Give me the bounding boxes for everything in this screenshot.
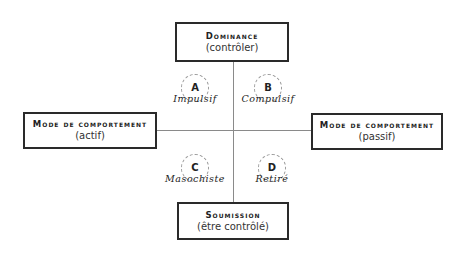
soumission-title: Soumission bbox=[205, 210, 260, 221]
soumission-box: Soumission (être contrôlé) bbox=[177, 202, 289, 240]
dominance-box: Dominance (contrôler) bbox=[175, 22, 289, 62]
horizontal-axis-line bbox=[157, 130, 311, 131]
quadrant-letter: C bbox=[185, 162, 205, 173]
mode-passif-subtitle: (passif) bbox=[359, 131, 396, 143]
dominance-subtitle: (contrôler) bbox=[206, 42, 259, 54]
mode-actif-box: Mode de comportement (actif) bbox=[23, 112, 157, 149]
dominance-title: Dominance bbox=[206, 31, 259, 42]
mode-passif-title: Mode de comportement bbox=[320, 120, 434, 131]
quadrant-label: Compulsif bbox=[223, 93, 313, 104]
quadrant-label: Retiré bbox=[227, 173, 317, 184]
mode-actif-subtitle: (actif) bbox=[75, 130, 105, 142]
mode-passif-box: Mode de comportement (passif) bbox=[311, 113, 443, 150]
quadrant-letter: B bbox=[258, 82, 278, 93]
quadrant-letter: A bbox=[185, 82, 205, 93]
quadrant-letter: D bbox=[262, 162, 282, 173]
mode-actif-title: Mode de comportement bbox=[33, 119, 147, 130]
soumission-subtitle: (être contrôlé) bbox=[197, 221, 269, 233]
